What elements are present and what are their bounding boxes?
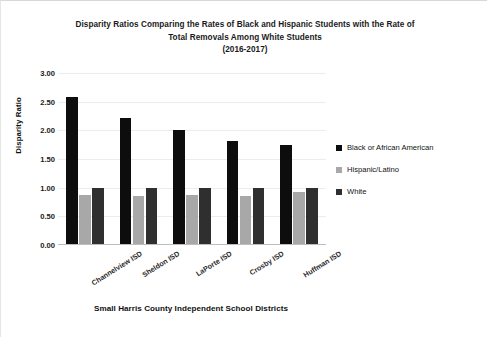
bar [120,118,132,245]
bar-group [219,73,273,245]
x-axis-label: LaPorte ISD [194,249,233,278]
y-axis-tick-labels: 0.000.501.001.502.002.503.00 [23,73,55,245]
legend-item[interactable]: Hispanic/Latino [336,165,484,175]
bar [227,141,239,245]
legend-swatch-icon [336,189,342,195]
bar [79,195,91,245]
y-axis-tick-6: 3.00 [40,69,55,78]
y-axis-tick-0: 0.00 [40,241,55,250]
y-axis-tick-4: 2.00 [40,126,55,135]
x-axis-title: Small Harris County Independent School D… [41,304,341,313]
y-axis-tick-1: 0.50 [40,212,55,221]
legend-label: White [347,188,366,196]
legend-item[interactable]: Black or African American [336,143,484,153]
bar [146,188,158,245]
chart-title: Disparity Ratios Comparing the Rates of … [39,19,451,57]
bar-group [272,73,326,245]
legend-swatch-icon [336,167,342,173]
bar [173,130,185,245]
y-axis-tick-3: 1.50 [40,155,55,164]
chart-title-line-3: (2016-2017) [39,44,451,57]
chart-title-line-1: Disparity Ratios Comparing the Rates of … [39,19,451,32]
bar [66,97,78,245]
bar [240,196,252,245]
chart-title-line-2: Total Removals Among White Students [39,32,451,45]
y-axis-tick-2: 1.00 [40,183,55,192]
legend-item[interactable]: White [336,187,484,197]
bar-group [165,73,219,245]
x-axis-label: Crosby ISD [247,249,285,277]
y-axis-tick-5: 2.50 [40,97,55,106]
y-axis-title: Disparity Ratio [14,71,23,181]
bar [253,188,265,245]
chart-figure: Disparity Ratios Comparing the Rates of … [0,0,487,337]
legend-label: Hispanic/Latino [347,166,399,174]
legend-swatch-icon [336,145,342,151]
bar [306,188,318,245]
bar [199,188,211,245]
legend-label: Black or African American [347,144,434,152]
bar [92,188,104,245]
bar [186,195,198,245]
bar [293,192,305,245]
x-axis-label: Huffman ISD [302,249,343,279]
x-axis-label: Sheldon ISD [141,249,182,279]
chart-legend: Black or African AmericanHispanic/Latino… [336,143,484,209]
bar-group [112,73,166,245]
x-axis-label: Channelview ISD [90,249,144,287]
bar [133,196,145,245]
bar-group [58,73,112,245]
x-axis-line [58,244,326,245]
bar [280,145,292,245]
plot-area [58,73,326,245]
